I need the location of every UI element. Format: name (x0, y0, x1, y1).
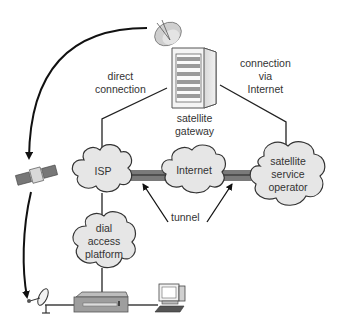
gateway-dish-icon (150, 17, 185, 50)
connection-via-internet-label: connection via Internet (240, 57, 291, 96)
tunnel-label: tunnel (171, 211, 200, 224)
connection-lines (45, 85, 286, 305)
isp-label: ISP (95, 165, 112, 178)
internet-label: Internet (176, 164, 212, 177)
satellite-gateway-label: satellite gateway (175, 112, 214, 138)
tunnel-arrow-left (143, 184, 168, 222)
gateway-server-icon (172, 48, 216, 108)
satellite-icon (15, 163, 58, 187)
dial-access-platform-label: dial access platform (85, 222, 123, 261)
direct-connection-label: direct connection (95, 70, 146, 96)
downlink-arrow (24, 192, 31, 297)
tunnel-arrow-right (207, 184, 232, 222)
computer-icon (155, 284, 185, 312)
satellite-service-operator-label: satellite service operator (268, 155, 307, 194)
modem-box-icon (74, 292, 128, 312)
receiver-dish-icon (27, 287, 50, 313)
direct-connection-line (102, 88, 167, 152)
